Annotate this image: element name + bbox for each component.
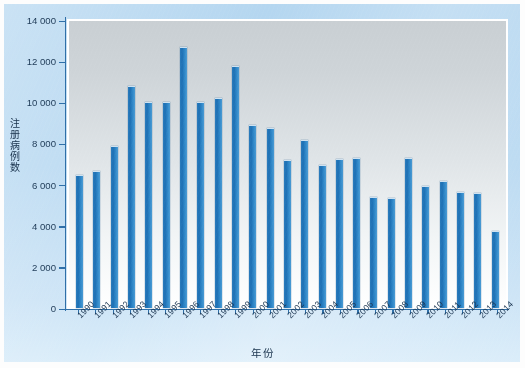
y-axis-tick [59,185,66,186]
bar-slot [88,21,105,308]
bar[interactable] [163,102,170,308]
bar[interactable] [405,158,412,308]
bar-slot [106,21,123,308]
bar-slot [192,21,209,308]
bar[interactable] [145,102,152,308]
y-axis-tick-label: 12 000 [0,56,56,67]
bar[interactable] [422,186,429,308]
bar-slot [348,21,365,308]
bar-slot [261,21,278,308]
bar[interactable] [76,175,83,308]
bar-slot [158,21,175,308]
y-axis-tick [59,267,66,268]
bar-slot [279,21,296,308]
bar-slot [71,21,88,308]
bar[interactable] [128,86,135,308]
bar-slot [365,21,382,308]
bar-slot [435,21,452,308]
plot-area [67,19,508,310]
bar[interactable] [336,159,343,308]
chart-figure: 14 00012 00010 0008 0006 0004 0002 0000 … [0,0,525,368]
bar[interactable] [284,160,291,308]
bar[interactable] [301,140,308,308]
bar[interactable] [474,193,481,308]
bar[interactable] [370,197,377,308]
bar[interactable] [93,171,100,308]
y-axis-tick [59,103,66,104]
y-axis-tick [59,21,66,22]
bar[interactable] [111,146,118,308]
bar-slot [313,21,330,308]
bar[interactable] [249,125,256,308]
y-axis-tick [59,144,66,145]
y-axis-title: 注册病例数 [6,118,21,173]
bar[interactable] [180,47,187,308]
bar-slot [417,21,434,308]
bar-series [69,21,506,308]
bar-slot [452,21,469,308]
bar[interactable] [319,165,326,308]
bar[interactable] [388,198,395,308]
bar-slot [175,21,192,308]
bar-slot [140,21,157,308]
bar-slot [123,21,140,308]
bar[interactable] [197,102,204,308]
bar-slot [244,21,261,308]
y-axis-tick-label: 10 000 [0,97,56,108]
x-axis-title: 年份 [0,345,525,360]
bar[interactable] [440,181,447,308]
bar-slot [210,21,227,308]
y-axis-tick-label: 4 000 [0,221,56,232]
y-axis-tick [59,309,66,310]
y-axis-tick-label: 6 000 [0,180,56,191]
y-axis-tick [59,226,66,227]
bar[interactable] [457,192,464,308]
y-axis-tick-label: 2 000 [0,262,56,273]
bar-slot [469,21,486,308]
bar-slot [400,21,417,308]
bar-slot [383,21,400,308]
page-edge-bottom [0,362,525,368]
bar[interactable] [492,231,499,308]
bar[interactable] [232,66,239,308]
page-edge-right [520,0,525,368]
bar-slot [296,21,313,308]
bar[interactable] [353,158,360,308]
bar-slot [331,21,348,308]
bar-slot [227,21,244,308]
y-axis-tick [59,62,66,63]
bar[interactable] [267,128,274,308]
bar[interactable] [215,98,222,308]
page-edge-top [0,0,525,4]
y-axis-tick-label: 14 000 [0,15,56,26]
bar-slot [487,21,504,308]
y-axis-tick-label: 0 [0,303,56,314]
